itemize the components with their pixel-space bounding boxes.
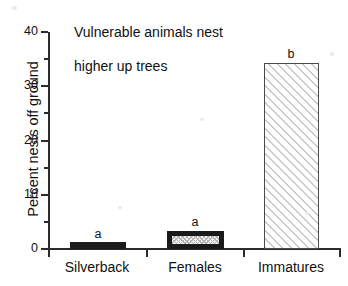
x-tick-boundary-3 bbox=[339, 250, 341, 257]
y-tick-label-0: 0 bbox=[0, 242, 38, 255]
x-tick-boundary-0 bbox=[48, 250, 50, 257]
x-tick-label-immatures: Immatures bbox=[236, 259, 346, 275]
chart-title: Vulnerable animals nest higher up trees bbox=[74, 7, 223, 92]
y-minor-tick-25 bbox=[44, 112, 48, 114]
x-tick-boundary-1 bbox=[146, 250, 148, 257]
y-tick-label-10: 10 bbox=[0, 188, 38, 201]
y-tick-40 bbox=[41, 31, 48, 33]
bar-annotation-silverback: a bbox=[68, 228, 128, 241]
bar-annotation-immatures: b bbox=[261, 48, 321, 61]
y-tick-0 bbox=[41, 248, 48, 250]
scan-speck bbox=[330, 52, 334, 56]
bar-females bbox=[167, 231, 224, 249]
y-axis-line bbox=[48, 32, 50, 250]
scan-speck bbox=[118, 206, 122, 209]
y-tick-label-20: 20 bbox=[0, 134, 38, 147]
scan-speck bbox=[200, 118, 204, 121]
scan-speck bbox=[12, 6, 17, 10]
bar-chart-figure: Vulnerable animals nest higher up trees … bbox=[0, 0, 348, 286]
y-minor-tick-35 bbox=[44, 58, 48, 60]
chart-title-line-1: Vulnerable animals nest bbox=[74, 24, 223, 41]
bar-immatures bbox=[264, 63, 319, 249]
bar-annotation-females: a bbox=[165, 216, 225, 229]
chart-title-line-2: higher up trees bbox=[74, 58, 223, 75]
y-tick-30 bbox=[41, 85, 48, 87]
y-tick-20 bbox=[41, 140, 48, 142]
y-tick-10 bbox=[41, 194, 48, 196]
y-minor-tick-15 bbox=[44, 167, 48, 169]
x-tick-label-females: Females bbox=[140, 259, 250, 275]
y-tick-label-40: 40 bbox=[0, 25, 38, 38]
x-tick-label-silverback: Silverback bbox=[42, 259, 152, 275]
y-minor-tick-5 bbox=[44, 221, 48, 223]
y-tick-label-30: 30 bbox=[0, 79, 38, 92]
scan-speck bbox=[305, 212, 309, 215]
bar-silverback bbox=[70, 242, 126, 249]
x-tick-boundary-2 bbox=[243, 250, 245, 257]
